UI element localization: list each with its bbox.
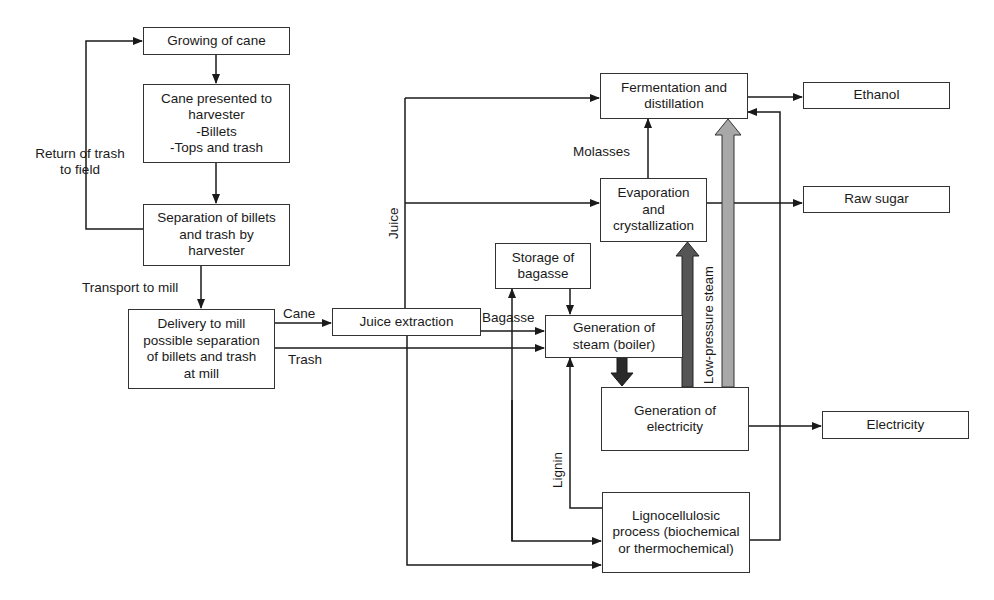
node-text: possible separation <box>143 333 259 350</box>
node-growing-of-cane: Growing of cane <box>143 27 290 55</box>
node-text: harvester <box>188 107 244 124</box>
node-text: Generation of <box>634 403 716 420</box>
node-text: Ethanol <box>854 87 900 104</box>
edge-label-return-of-trash: Return of trash to field <box>28 146 132 178</box>
node-fermentation-and-distillation: Fermentation and distillation <box>600 73 748 119</box>
node-text: bagasse <box>517 266 568 283</box>
node-text: Storage of <box>512 250 574 267</box>
edge-label-juice: Juice <box>386 207 401 239</box>
node-text: electricity <box>647 419 703 436</box>
node-delivery-to-mill: Delivery to mill possible separation of … <box>128 309 275 389</box>
node-text: Delivery to mill <box>158 316 246 333</box>
node-text: process (biochemical <box>613 524 740 541</box>
edge-label-trash: Trash <box>288 352 322 368</box>
node-text: harvester <box>188 243 244 260</box>
node-text: Lignocellulosic <box>632 508 720 525</box>
node-ethanol: Ethanol <box>803 82 950 109</box>
node-text: distillation <box>644 96 703 113</box>
edge-label-cane: Cane <box>283 306 315 322</box>
node-text: -Billets <box>196 124 237 141</box>
node-separation-by-harvester: Separation of billets and trash by harve… <box>143 204 290 266</box>
node-raw-sugar: Raw sugar <box>803 186 950 213</box>
node-electricity: Electricity <box>822 411 969 439</box>
node-text: Growing of cane <box>167 33 265 50</box>
node-text: crystallization <box>613 218 694 235</box>
node-text: Evaporation <box>617 185 689 202</box>
edge-label-transport-to-mill: Transport to mill <box>82 280 178 296</box>
node-cane-presented-to-harvester: Cane presented to harvester -Billets -To… <box>143 84 290 163</box>
node-text: Raw sugar <box>844 191 909 208</box>
node-lignocellulosic-process: Lignocellulosic process (biochemical or … <box>602 492 750 573</box>
node-text: and trash by <box>179 227 253 244</box>
node-text: Fermentation and <box>621 80 727 97</box>
node-text: of billets and trash <box>147 349 257 366</box>
node-storage-of-bagasse: Storage of bagasse <box>495 243 591 289</box>
edge-label-lignin: Lignin <box>550 452 565 488</box>
node-generation-of-electricity: Generation of electricity <box>601 387 749 451</box>
edge-label-bagasse: Bagasse <box>482 310 535 326</box>
node-text: -Tops and trash <box>170 140 263 157</box>
node-text: Electricity <box>867 417 925 434</box>
node-text: Cane presented to <box>161 91 272 108</box>
node-text: and <box>642 202 665 219</box>
edge-label-molasses: Molasses <box>573 144 630 160</box>
node-juice-extraction: Juice extraction <box>332 308 481 336</box>
node-text: at mill <box>184 366 219 383</box>
edge-label-line: Return of trash <box>28 146 132 162</box>
edge-label-low-pressure-steam: Low-pressure steam <box>701 266 716 384</box>
node-evaporation-and-crystallization: Evaporation and crystallization <box>600 178 707 242</box>
node-text: Generation of <box>573 320 655 337</box>
node-text: Juice extraction <box>360 314 454 331</box>
node-text: or thermochemical) <box>618 541 734 558</box>
node-text: Separation of billets <box>157 210 276 227</box>
edge-label-line: to field <box>28 162 132 178</box>
node-generation-of-steam: Generation of steam (boiler) <box>545 315 683 358</box>
node-text: steam (boiler) <box>573 337 656 354</box>
